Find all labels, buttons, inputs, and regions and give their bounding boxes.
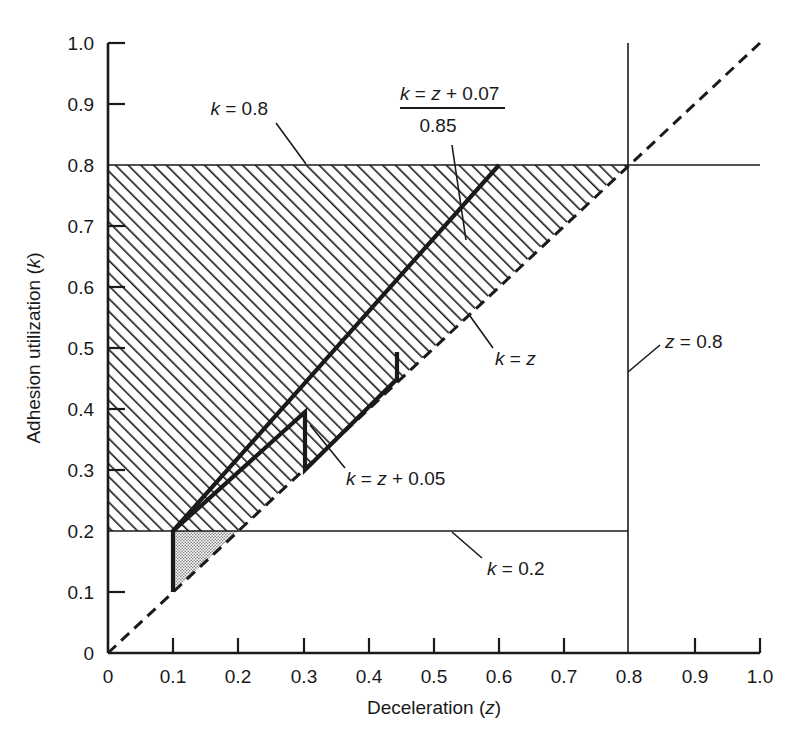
svg-text:Adhesion utilization (k): Adhesion utilization (k) — [23, 252, 44, 443]
x-tick-label: 0.7 — [551, 666, 577, 687]
x-tick-label: 0.9 — [682, 666, 708, 687]
x-tick-labels: 0 0.1 0.2 0.3 0.4 0.5 0.6 0.7 0.8 0.9 1.… — [103, 666, 774, 687]
y-tick-label: 0.9 — [68, 94, 94, 115]
y-tick-label: 0.2 — [68, 521, 94, 542]
y-tick-label: 1.0 — [68, 33, 94, 54]
y-axis-title: Adhesion utilization (k) — [23, 252, 44, 443]
annotation-k-equals-z-plus-005: k = z + 0.05 — [346, 468, 445, 489]
x-tick-label: 0.3 — [291, 666, 317, 687]
x-axis-title-text: Deceleration ( — [367, 697, 486, 718]
y-tick-label: 0.5 — [68, 338, 94, 359]
x-tick-label: 0 — [103, 666, 114, 687]
y-tick-label: 0.7 — [68, 216, 94, 237]
y-axis-title-text: Adhesion utilization ( — [23, 268, 44, 444]
x-tick-label: 0.2 — [225, 666, 251, 687]
annotation-k-equals-0-2: k = 0.2 — [487, 558, 545, 579]
annotation-k-equals-0-8: k = 0.8 — [210, 98, 268, 119]
y-tick-label: 0.3 — [68, 460, 94, 481]
fraction-denominator: 0.85 — [420, 115, 457, 136]
x-axis-title-suffix: ) — [495, 697, 501, 718]
leader-line-k-0-8 — [276, 123, 306, 164]
y-tick-labels: 0 0.1 0.2 0.3 0.4 0.5 0.6 0.7 0.8 0.9 1.… — [68, 33, 95, 664]
x-tick-label: 0.6 — [486, 666, 512, 687]
y-axis-title-suffix: ) — [23, 252, 44, 258]
y-tick-label: 0.8 — [68, 155, 94, 176]
fraction-numerator: k = z + 0.07 — [400, 83, 499, 104]
x-tick-label: 0.1 — [160, 666, 186, 687]
x-axis-title-symbol: z — [484, 697, 495, 718]
y-tick-label: 0 — [83, 643, 94, 664]
annotation-k-equals-z: k = z — [495, 348, 536, 369]
annotation-z-equals-0-8: z = 0.8 — [664, 331, 723, 352]
y-tick-label: 0.4 — [68, 399, 95, 420]
x-tick-label: 1.0 — [747, 666, 773, 687]
x-tick-label: 0.5 — [421, 666, 447, 687]
x-tick-label: 0.4 — [356, 666, 383, 687]
figure-canvas: 0 0.1 0.2 0.3 0.4 0.5 0.6 0.7 0.8 0.9 1.… — [0, 0, 812, 734]
y-tick-label: 0.1 — [68, 582, 94, 603]
adhesion-utilization-chart: 0 0.1 0.2 0.3 0.4 0.5 0.6 0.7 0.8 0.9 1.… — [0, 0, 812, 734]
y-tick-label: 0.6 — [68, 277, 94, 298]
svg-text:Deceleration (z): Deceleration (z) — [367, 697, 501, 718]
x-axis-title: Deceleration (z) — [367, 697, 501, 718]
x-tick-label: 0.8 — [616, 666, 642, 687]
